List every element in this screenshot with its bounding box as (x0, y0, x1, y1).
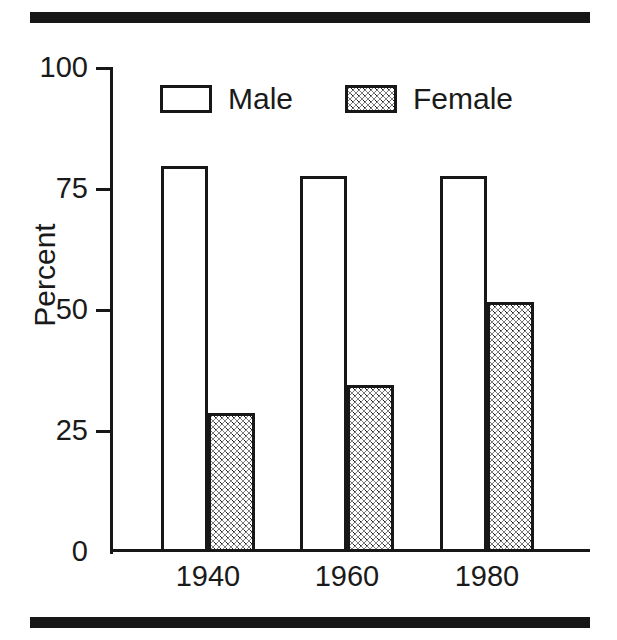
x-tick-label-1980: 1980 (417, 560, 557, 592)
top-divider-rule (30, 12, 590, 23)
x-tick-label-1940: 1940 (138, 560, 278, 592)
legend-label-female: Female (413, 82, 513, 116)
x-tick-label-1960: 1960 (277, 560, 417, 592)
legend-item-male: Male (160, 78, 293, 120)
bar-female-1980 (487, 302, 534, 552)
y-tick-mark-100 (96, 67, 111, 70)
y-tick-label-0: 0 (18, 537, 88, 566)
y-tick-mark-75 (96, 188, 111, 191)
bar-female-1940 (208, 413, 255, 552)
legend-label-male: Male (228, 82, 293, 116)
y-axis-title: Percent (25, 195, 65, 355)
bar-male-1980 (440, 176, 487, 552)
bar-chart-figure: Male Female 100 75 50 25 0 Percent 1940 … (0, 0, 617, 640)
y-tick-label-25: 25 (18, 416, 88, 445)
legend-swatch-male-icon (160, 85, 212, 113)
bottom-divider-rule (30, 617, 590, 628)
legend-swatch-female-icon (345, 85, 397, 113)
bar-female-1960 (347, 385, 394, 552)
y-tick-label-100: 100 (18, 53, 88, 82)
bar-male-1960 (300, 176, 347, 552)
y-tick-mark-50 (96, 309, 111, 312)
bar-male-1940 (161, 166, 208, 552)
legend-item-female: Female (345, 78, 513, 120)
y-tick-mark-25 (96, 430, 111, 433)
